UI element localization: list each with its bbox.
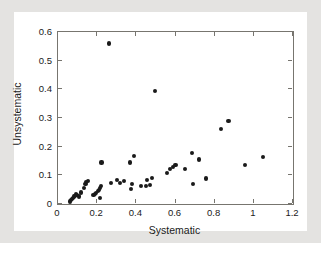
data-point	[99, 160, 103, 164]
y-axis-tick	[57, 88, 62, 89]
figure-container: Systematic Unsystematic 00.20.40.60.811.…	[0, 0, 321, 259]
x-axis-tick-label: 1.2	[285, 207, 298, 218]
x-axis-tick-top	[253, 31, 254, 36]
figure-bottom-strip	[0, 243, 321, 259]
data-point	[150, 176, 154, 180]
y-axis-tick-right	[288, 88, 293, 89]
data-point	[132, 154, 136, 158]
x-axis-tick-top	[135, 31, 136, 36]
data-point	[79, 190, 83, 194]
x-axis-tick	[135, 199, 136, 204]
x-axis-tick	[292, 199, 293, 204]
x-axis-tick-label: 1	[250, 207, 255, 218]
data-point	[165, 171, 169, 175]
data-point	[204, 176, 208, 180]
x-axis-tick-top	[292, 31, 293, 36]
data-point	[129, 187, 133, 191]
x-axis-tick-top	[214, 31, 215, 36]
y-axis-tick-right	[288, 146, 293, 147]
data-point	[86, 179, 90, 183]
data-point	[139, 184, 143, 188]
x-axis-tick-label: 0.8	[207, 207, 220, 218]
y-axis-tick-label: 0	[19, 198, 52, 209]
data-point	[173, 163, 177, 167]
data-point	[122, 179, 126, 183]
x-axis-tick-label: 0.2	[90, 207, 103, 218]
data-point	[98, 196, 102, 200]
data-point	[243, 163, 247, 167]
y-axis-tick-right	[288, 117, 293, 118]
data-point	[191, 182, 195, 186]
data-point	[183, 167, 187, 171]
y-axis-tick	[57, 174, 62, 175]
data-point	[219, 127, 223, 131]
x-axis-tick	[96, 199, 97, 204]
y-axis-tick-label: 0.6	[19, 26, 52, 37]
data-point	[190, 151, 194, 155]
y-axis-tick-right	[288, 31, 293, 32]
data-point	[107, 41, 111, 45]
x-axis-tick	[175, 199, 176, 204]
data-point	[197, 157, 201, 161]
y-axis-tick-right	[288, 203, 293, 204]
scatter-plot-axes	[57, 31, 294, 205]
data-point	[261, 155, 265, 159]
x-axis-tick-label: 0.6	[168, 207, 181, 218]
y-axis-tick	[57, 146, 62, 147]
y-axis-tick-right	[288, 174, 293, 175]
data-point	[145, 178, 149, 182]
data-point	[148, 183, 152, 187]
data-point	[226, 119, 230, 123]
x-axis-tick-label: 0	[54, 207, 59, 218]
data-point	[153, 89, 157, 93]
y-axis-tick	[57, 203, 62, 204]
y-axis-tick	[57, 31, 62, 32]
y-axis-tick-label: 0.3	[19, 112, 52, 123]
y-axis-tick-label: 0.4	[19, 83, 52, 94]
x-axis-tick	[253, 199, 254, 204]
data-point	[77, 194, 81, 198]
y-axis-tick-label: 0.5	[19, 54, 52, 65]
x-axis-title: Systematic	[57, 224, 292, 236]
x-axis-tick	[214, 199, 215, 204]
y-axis-tick	[57, 60, 62, 61]
data-point	[128, 160, 132, 164]
x-axis-tick-label: 0.4	[129, 207, 142, 218]
y-axis-tick-label: 0.1	[19, 169, 52, 180]
y-axis-tick-right	[288, 60, 293, 61]
x-axis-tick-top	[96, 31, 97, 36]
y-axis-tick	[57, 117, 62, 118]
x-axis-tick-top	[175, 31, 176, 36]
data-point	[109, 181, 113, 185]
y-axis-tick-label: 0.2	[19, 140, 52, 151]
data-point	[82, 186, 86, 190]
data-point	[130, 182, 134, 186]
data-point	[99, 184, 103, 188]
